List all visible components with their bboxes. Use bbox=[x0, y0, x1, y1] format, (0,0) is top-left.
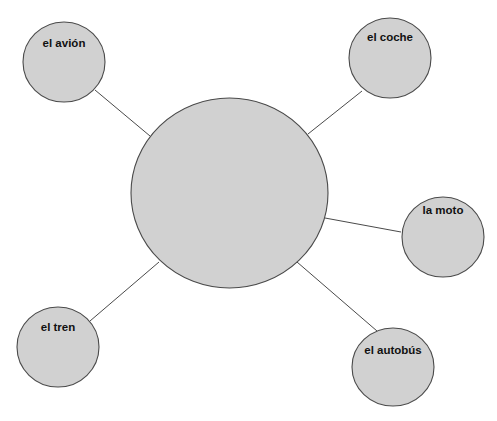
node-label-moto: la moto bbox=[423, 205, 464, 217]
node-label-coche: el coche bbox=[367, 32, 413, 44]
node-circle-coche bbox=[349, 18, 431, 98]
node-label-avion: el avión bbox=[43, 38, 86, 50]
center-circle bbox=[131, 98, 328, 288]
node-label-autobus: el autobús bbox=[364, 345, 422, 357]
connector-line-tren bbox=[90, 262, 159, 321]
connector-line-autobus bbox=[297, 262, 377, 331]
node-circle-autobus bbox=[352, 328, 434, 406]
connector-line-moto bbox=[325, 218, 401, 232]
node-label-tren: el tren bbox=[41, 322, 76, 334]
node-circle-avion bbox=[23, 22, 105, 102]
node-circle-tren bbox=[17, 307, 99, 387]
connector-line-coche bbox=[308, 91, 362, 134]
connector-line-avion bbox=[95, 90, 150, 136]
